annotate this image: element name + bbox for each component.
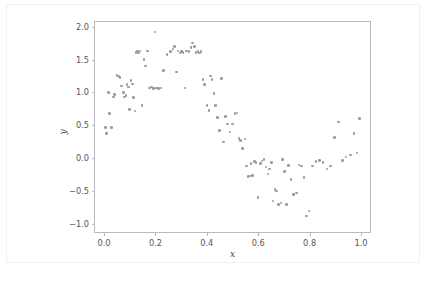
scatter-point — [166, 53, 169, 56]
y-tick-label: 1.5 — [76, 55, 89, 65]
scatter-point — [244, 138, 247, 141]
y-tick-label: 2.0 — [76, 22, 89, 32]
scatter-point — [231, 123, 234, 126]
scatter-point — [245, 165, 248, 168]
scatter-point — [337, 121, 340, 124]
scatter-point — [239, 139, 242, 142]
scatter-point — [182, 51, 185, 54]
scatter-point — [303, 176, 306, 179]
scatter-point — [341, 159, 344, 162]
scatter-point — [143, 58, 146, 61]
y-tick-label: −0.5 — [69, 186, 89, 196]
scatter-point — [200, 50, 203, 53]
scatter-point — [128, 108, 131, 111]
scatter-plot-figure: −1.0−0.50.00.51.01.52.0 0.00.20.40.60.81… — [7, 5, 421, 264]
scatter-point — [134, 110, 137, 113]
scatter-point — [160, 87, 163, 90]
x-tick-label: 0.0 — [97, 238, 110, 248]
scatter-point — [250, 162, 253, 165]
y-tick-label: −1.0 — [69, 219, 89, 229]
scatter-point — [353, 132, 356, 135]
scatter-point — [191, 42, 194, 45]
scatter-point — [127, 86, 130, 89]
scatter-point — [268, 168, 271, 171]
scatter-point — [257, 196, 260, 199]
scatter-point — [113, 93, 116, 96]
scatter-point — [241, 147, 244, 150]
scatter-point — [295, 192, 298, 195]
scatter-point — [267, 173, 270, 176]
scatter-point — [139, 50, 142, 53]
scatter-point — [162, 69, 165, 72]
scatter-point — [333, 136, 336, 139]
scatter-point — [184, 87, 187, 90]
scatter-point — [263, 158, 266, 161]
scatter-point — [107, 91, 110, 94]
y-tick-label: 1.0 — [76, 87, 89, 97]
scatter-point — [152, 87, 155, 90]
scatter-point — [214, 104, 217, 107]
scatter-point — [206, 104, 209, 107]
scatter-point — [202, 78, 205, 81]
scatter-point — [280, 202, 283, 205]
scatter-point — [311, 165, 314, 168]
scatter-point — [122, 91, 125, 94]
scatter-point — [213, 92, 216, 95]
scatter-point — [285, 203, 288, 206]
scatter-point — [259, 162, 262, 165]
scatter-point — [137, 52, 140, 55]
scatter-point — [119, 76, 122, 79]
scatter-point — [322, 161, 325, 164]
scatter-point — [283, 170, 286, 173]
x-tick-mark — [310, 232, 311, 236]
scatter-point — [270, 161, 273, 164]
scatter-point — [209, 75, 212, 78]
scatter-point — [308, 210, 311, 213]
scatter-point — [172, 48, 175, 51]
scatter-point — [211, 78, 214, 81]
scatter-point — [131, 83, 134, 86]
scatter-point — [329, 165, 332, 168]
scatter-point — [169, 50, 172, 53]
scatter-point — [125, 94, 128, 97]
scatter-point — [112, 96, 115, 99]
scatter-point — [188, 50, 191, 53]
x-tick-mark — [258, 232, 259, 236]
y-tick-mark — [92, 27, 96, 28]
x-tick-mark — [104, 232, 105, 236]
scatter-point — [265, 166, 268, 169]
scatter-point — [120, 85, 123, 88]
scatter-point — [108, 112, 111, 115]
scatter-point — [272, 200, 275, 203]
y-tick-mark — [92, 224, 96, 225]
scatter-point — [193, 45, 196, 48]
x-tick-mark — [155, 232, 156, 236]
scatter-point — [281, 158, 284, 161]
x-tick-label: 0.6 — [252, 238, 265, 248]
scatter-point — [220, 77, 223, 80]
scatter-point — [255, 161, 258, 164]
scatter-point — [218, 129, 221, 132]
x-tick-label: 1.0 — [354, 238, 367, 248]
scatter-point — [104, 126, 107, 129]
scatter-point — [318, 159, 321, 162]
scatter-point — [315, 160, 318, 163]
scatter-point — [105, 132, 108, 135]
scatter-point — [349, 154, 352, 157]
scatter-point — [236, 112, 239, 115]
scatter-point — [290, 178, 293, 181]
scatter-point — [287, 164, 290, 167]
scatter-point — [300, 165, 303, 168]
scatter-point — [224, 115, 227, 118]
scatter-point — [229, 131, 232, 134]
scatter-point — [132, 96, 135, 99]
scatter-point — [358, 117, 361, 120]
scatter-point — [305, 215, 308, 218]
scatter-point — [173, 45, 176, 48]
scatter-point — [144, 65, 147, 68]
y-tick-label: 0.5 — [76, 120, 89, 130]
scatter-point — [216, 116, 219, 119]
scatter-point — [110, 126, 113, 129]
y-tick-label: 0.0 — [76, 153, 89, 163]
scatter-point — [141, 104, 144, 107]
